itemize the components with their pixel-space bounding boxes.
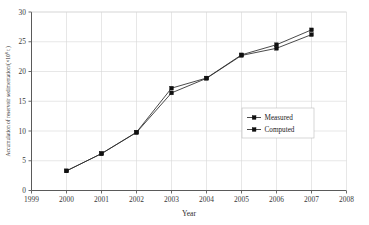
x-tick-label: 2008 [339, 195, 354, 204]
y-tick-label: 0 [22, 186, 26, 195]
x-tick-label: 2007 [304, 195, 319, 204]
data-point-marker [65, 169, 69, 173]
data-point-marker [205, 76, 209, 80]
y-tick-label: 25 [19, 37, 27, 46]
data-point-marker [310, 33, 314, 37]
data-point-marker [240, 53, 244, 57]
y-tick-label: 30 [19, 8, 27, 17]
y-axis-title-text: Accumulation of reservoir sedimentation/… [4, 46, 12, 157]
x-tick-label: 1999 [24, 195, 39, 204]
legend-label: Measured [265, 114, 294, 122]
x-tick-label: 2000 [59, 195, 74, 204]
data-point-marker [310, 28, 314, 32]
legend-marker [252, 128, 256, 132]
x-tick-label: 2005 [234, 195, 249, 204]
sedimentation-line-chart: 1999200020012002200320042005200620072008… [0, 0, 369, 225]
chart-figure: 1999200020012002200320042005200620072008… [0, 0, 369, 225]
data-point-marker [275, 46, 279, 50]
legend-label: Computed [265, 126, 295, 134]
x-tick-label: 2006 [269, 195, 284, 204]
y-tick-label: 15 [19, 97, 27, 106]
data-point-marker [100, 152, 104, 156]
data-point-marker [135, 130, 139, 134]
legend-marker [252, 116, 256, 120]
y-axis-title: Accumulation of reservoir sedimentation/… [4, 46, 12, 157]
x-tick-label: 2003 [164, 195, 179, 204]
x-tick-label: 2004 [199, 195, 214, 204]
data-point-marker [275, 43, 279, 47]
data-point-marker [170, 86, 174, 90]
chart-legend[interactable]: MeasuredComputed [242, 108, 314, 138]
x-tick-label: 2002 [129, 195, 144, 204]
x-axis-title: Year [182, 209, 196, 218]
y-tick-label: 5 [22, 156, 26, 165]
y-tick-label: 10 [19, 127, 27, 136]
x-tick-label: 2001 [94, 195, 109, 204]
data-point-marker [170, 91, 174, 95]
y-tick-label: 20 [19, 67, 27, 76]
